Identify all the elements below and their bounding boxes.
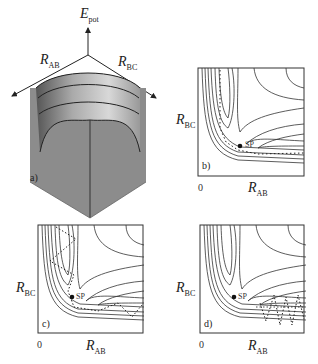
panel-c-label: c) [42,318,50,329]
panel-d-origin: 0 [199,339,204,350]
panel-d-label: d) [204,318,212,329]
panel-b-y-label: RBC [176,112,195,130]
panel-d-contour [200,225,306,333]
panel-d-y-label: RBC [176,280,195,298]
panel-c-y-label: RBC [16,280,35,298]
panel-c-origin: 0 [37,339,42,350]
rab-axis-label: RAB [40,52,60,70]
panel-d-saddle-label: SP [238,292,247,301]
panel-b-label: b) [202,160,210,171]
panel-d-x-label: RAB [248,338,268,356]
panel-b-contour [198,68,304,176]
panel-b-origin: 0 [198,182,203,193]
rbc-axis-label: RBC [118,54,137,72]
panel-c-contour [38,225,144,333]
energy-axis-label: Epot [80,6,99,24]
panel-c-saddle-label: SP [76,292,85,301]
panel-b-x-label: RAB [248,180,268,198]
panel-b-saddle-label: SP [245,140,254,149]
panel-a-label: a) [30,172,38,183]
panel-c-x-label: RAB [86,338,106,356]
